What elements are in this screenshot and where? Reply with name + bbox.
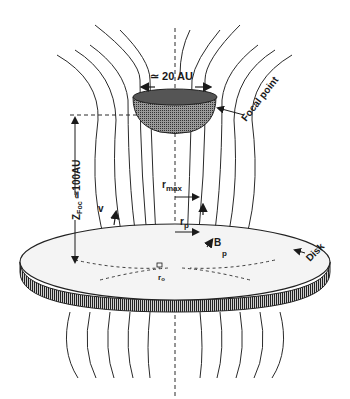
focal-point-label: Focal point xyxy=(239,74,281,123)
b-p-subscript: p xyxy=(222,249,227,258)
b-p-label: B xyxy=(214,237,221,248)
z-foc-label: ZFoc ≃100AU xyxy=(71,160,83,220)
diagram-canvas: ≃ 20 AU Focal point ZFoc ≃100AU rmax rp … xyxy=(0,0,350,399)
focal-width-label: ≃ 20 AU xyxy=(150,70,193,82)
v-label: v xyxy=(98,203,104,214)
r-max-label: rmax xyxy=(162,179,182,193)
disk xyxy=(20,224,330,312)
